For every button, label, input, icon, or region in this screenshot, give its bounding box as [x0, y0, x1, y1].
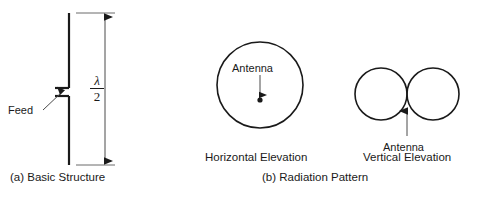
- vertical-elevation-left-lobe: [355, 68, 407, 120]
- half-wave-dipole-figure: Feed λ 2 (a) Basic Structure Antenna Hor…: [0, 0, 482, 199]
- horizontal-elevation-caption: Horizontal Elevation: [205, 152, 307, 164]
- figure-vector-layer: [0, 0, 482, 199]
- vertical-elevation-caption: Vertical Elevation: [363, 152, 451, 164]
- feed-leader-line: [43, 92, 62, 110]
- dipole-upper-arm: [55, 13, 69, 88]
- panel-b-caption: (b) Radiation Pattern: [262, 172, 368, 184]
- horizontal-antenna-label: Antenna: [232, 63, 273, 74]
- vertical-elevation-right-lobe: [407, 68, 459, 120]
- horizontal-antenna-dot: [257, 97, 262, 102]
- fraction-denominator: 2: [90, 89, 104, 103]
- lambda-numerator: λ: [90, 74, 104, 88]
- dipole-lower-arm: [55, 96, 69, 165]
- panel-a-caption: (a) Basic Structure: [10, 172, 105, 184]
- half-wavelength-label: λ 2: [90, 74, 104, 103]
- feed-label: Feed: [8, 105, 33, 116]
